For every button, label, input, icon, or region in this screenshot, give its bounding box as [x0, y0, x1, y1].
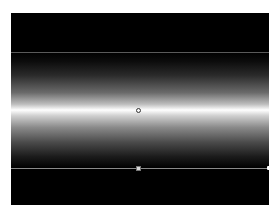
faint-overlay-text [166, 181, 216, 201]
gradient-edge-handle[interactable] [267, 166, 269, 170]
gradient-guide-top[interactable] [11, 52, 269, 53]
gradient-stop-handle[interactable] [136, 166, 141, 171]
gradient-center-handle[interactable] [136, 108, 141, 113]
gradient-canvas[interactable] [11, 13, 269, 205]
